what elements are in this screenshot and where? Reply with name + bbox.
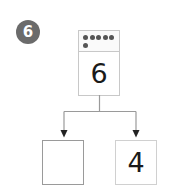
part-right-value: 4: [127, 147, 144, 178]
part-right-box: 4: [115, 140, 157, 185]
arrow-down-icon: [133, 130, 140, 138]
part-left-answer-box[interactable]: [42, 140, 84, 185]
arrow-down-icon: [61, 130, 68, 138]
